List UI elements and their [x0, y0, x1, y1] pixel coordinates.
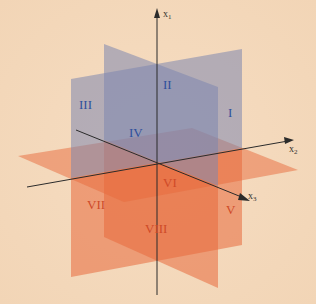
x1-label: x1: [163, 8, 172, 21]
octant-label-IV: IV: [129, 125, 143, 140]
octant-label-VII: VII: [87, 197, 105, 212]
octant-label-VIII: VIII: [145, 221, 167, 236]
octant-label-VI: VI: [163, 175, 177, 190]
octant-label-II: II: [163, 77, 172, 92]
x1-arrow-icon: [154, 8, 160, 18]
x3-label: x3: [248, 190, 257, 203]
octant-label-I: I: [228, 105, 232, 120]
diagram-canvas: x1 x2 x3 I II III IV V VI VII VIII: [0, 0, 316, 304]
octant-diagram: x1 x2 x3 I II III IV V VI VII VIII: [0, 0, 316, 304]
octant-label-III: III: [79, 97, 92, 112]
x2-label: x2: [289, 143, 298, 156]
octant-label-V: V: [226, 202, 236, 217]
